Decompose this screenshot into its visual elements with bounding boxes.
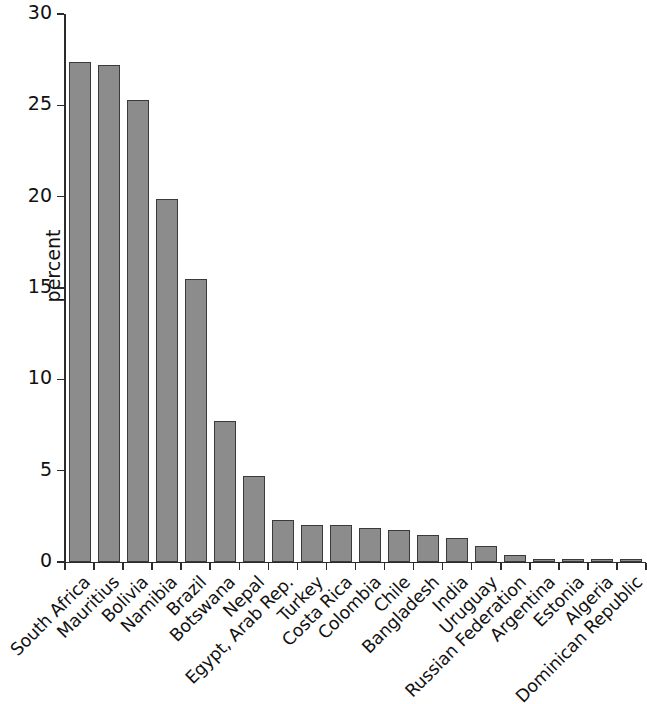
bar bbox=[243, 476, 265, 562]
x-tick bbox=[413, 563, 415, 570]
bar bbox=[417, 535, 439, 562]
bar bbox=[156, 199, 178, 563]
x-tick bbox=[180, 563, 182, 570]
x-tick bbox=[297, 563, 299, 570]
bar bbox=[620, 559, 642, 562]
x-tick bbox=[239, 563, 241, 570]
bar bbox=[272, 520, 294, 562]
y-tick-label: 10 bbox=[0, 366, 52, 388]
bar bbox=[330, 525, 352, 562]
bar bbox=[359, 528, 381, 562]
bar bbox=[69, 62, 91, 563]
plot-area bbox=[65, 14, 646, 562]
y-tick-label: 25 bbox=[0, 92, 52, 114]
x-tick-origin bbox=[64, 563, 66, 570]
x-tick bbox=[355, 563, 357, 570]
y-tick-label: 30 bbox=[0, 1, 52, 23]
y-tick-label: 0 bbox=[0, 549, 52, 571]
x-tick bbox=[529, 563, 531, 570]
x-tick bbox=[616, 563, 618, 570]
x-tick bbox=[500, 563, 502, 570]
bar bbox=[98, 65, 120, 562]
bar bbox=[562, 559, 584, 562]
y-tick-20 bbox=[57, 196, 64, 198]
x-tick bbox=[384, 563, 386, 570]
bar bbox=[301, 525, 323, 562]
y-tick-label: 15 bbox=[0, 275, 52, 297]
bar bbox=[504, 555, 526, 562]
x-tick bbox=[442, 563, 444, 570]
bar bbox=[533, 559, 555, 562]
x-tick bbox=[558, 563, 560, 570]
bar bbox=[446, 538, 468, 562]
y-tick-10 bbox=[57, 379, 64, 381]
y-tick-label: 20 bbox=[0, 184, 52, 206]
y-tick-15 bbox=[57, 287, 64, 289]
y-tick-25 bbox=[57, 105, 64, 107]
bar bbox=[127, 100, 149, 562]
bar bbox=[591, 559, 613, 562]
bar bbox=[388, 530, 410, 562]
x-tick bbox=[268, 563, 270, 570]
bar bbox=[214, 421, 236, 562]
x-tick bbox=[151, 563, 153, 570]
y-tick-5 bbox=[57, 470, 64, 472]
bar bbox=[475, 546, 497, 562]
y-tick-0 bbox=[57, 561, 64, 563]
x-tick bbox=[587, 563, 589, 570]
x-tick bbox=[326, 563, 328, 570]
y-tick-30 bbox=[57, 13, 64, 15]
x-tick bbox=[122, 563, 124, 570]
bar bbox=[185, 279, 207, 562]
x-tick bbox=[471, 563, 473, 570]
y-axis-title: percent bbox=[42, 206, 64, 326]
y-tick-label: 5 bbox=[0, 458, 52, 480]
x-tick bbox=[209, 563, 211, 570]
x-tick bbox=[93, 563, 95, 570]
